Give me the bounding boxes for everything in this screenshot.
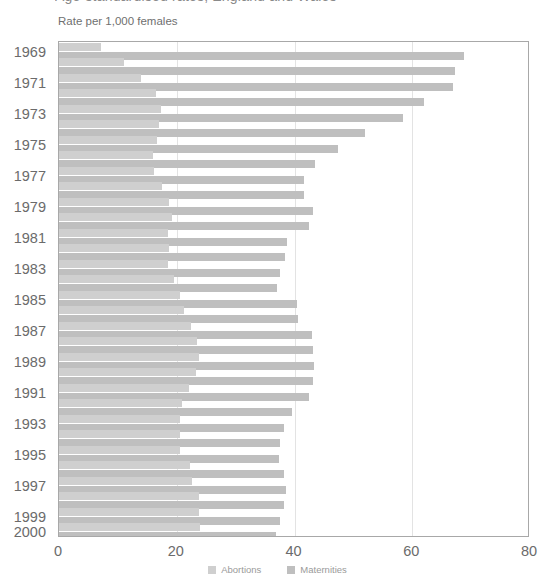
y-axis-tick-label: 2000 [14,524,46,540]
bar-abortions [59,477,192,485]
axis-caption: Rate per 1,000 females [58,15,178,27]
legend-item: Maternities [287,564,346,575]
bar-abortions [59,136,157,144]
y-axis-tick-label: 1971 [14,75,46,91]
y-axis-tick-label: 1999 [14,509,46,525]
bar-abortions [59,182,162,190]
bar-abortions [59,322,191,330]
bar-abortions [59,337,197,345]
x-axis-tick-label: 20 [168,543,184,559]
bar-abortions [59,89,156,97]
y-axis-tick-label: 1995 [14,447,46,463]
bar-abortions [59,151,153,159]
bar-abortions [59,430,180,438]
bar-abortions [59,198,169,206]
y-axis-tick-label: 1969 [14,44,46,60]
x-axis-tick-label: 40 [285,543,301,559]
bar-abortions [59,275,174,283]
chart-legend: AbortionsMaternities [0,564,555,575]
y-axis-labels: 1969197119731975197719791981198319851987… [0,41,52,537]
y-axis-tick-label: 1981 [14,230,46,246]
bar-abortions [59,306,184,314]
bar-abortions [59,368,196,376]
y-axis-tick-label: 1989 [14,354,46,370]
bar-abortions [59,492,199,500]
bar-abortions [59,58,124,66]
bar-abortions [59,43,101,51]
bar-abortions [59,120,159,128]
bar-abortions [59,508,199,516]
bar-abortions [59,415,180,423]
y-axis-tick-label: 1985 [14,292,46,308]
bar-abortions [59,446,180,454]
y-axis-tick-label: 1979 [14,199,46,215]
y-axis-tick-label: 1993 [14,416,46,432]
gridline [412,42,413,536]
y-axis-tick-label: 1991 [14,385,46,401]
bar-abortions [59,229,168,237]
bar-abortions [59,244,169,252]
bar-abortions [59,213,172,221]
x-axis-tick-label: 0 [54,543,62,559]
legend-item: Abortions [208,564,261,575]
bar-abortions [59,74,141,82]
bar-abortions [59,105,161,113]
bar-abortions [59,291,180,299]
bar-abortions [59,461,190,469]
y-axis-tick-label: 1973 [14,106,46,122]
bar-abortions [59,260,168,268]
bar-abortions [59,167,154,175]
bar-abortions [59,353,199,361]
bar-abortions [59,384,189,392]
plot-area [58,41,529,537]
legend-label: Maternities [300,564,346,575]
x-axis-tick-label: 80 [521,543,537,559]
square-swatch-icon [287,566,295,574]
square-swatch-icon [208,566,216,574]
y-axis-tick-label: 1975 [14,137,46,153]
y-axis-tick-label: 1977 [14,168,46,184]
x-axis-tick-label: 60 [403,543,419,559]
y-axis-tick-label: 1997 [14,478,46,494]
y-axis-tick-label: 1987 [14,323,46,339]
y-axis-tick-label: 1983 [14,261,46,277]
x-axis-labels: 020406080 [0,543,555,563]
bar-abortions [59,399,182,407]
bar-abortions [59,523,200,531]
chart-title-cutoff: Age-standardised rates, England and Wale… [55,0,337,4]
bar-maternities [59,532,276,537]
legend-label: Abortions [221,564,261,575]
